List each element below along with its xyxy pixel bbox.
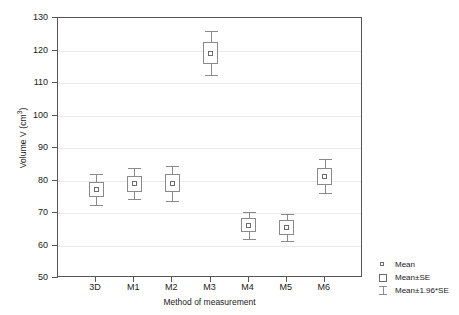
gridline <box>58 213 361 214</box>
whisker-cap-lower <box>166 201 179 202</box>
x-axis-tick-label-m4: M4 <box>228 282 268 292</box>
whisker-cap-upper <box>205 31 218 32</box>
gridline <box>58 116 361 117</box>
y-axis-tick-label: 90 <box>4 142 48 152</box>
x-axis-title: Method of measurement <box>57 297 362 307</box>
box-marker-icon <box>378 271 392 284</box>
y-axis-tick-label: 50 <box>4 272 48 282</box>
legend-label-mean-se: Mean±SE <box>392 273 430 282</box>
gridline <box>58 148 361 149</box>
chart-figure: Volume V (cm3) 5060708090100110120130 3D… <box>0 0 459 315</box>
x-axis-tick-label-m1: M1 <box>113 282 153 292</box>
legend-item-mean: Mean <box>378 258 449 271</box>
legend-item-mean-ci: Mean±1.96*SE <box>378 284 449 297</box>
whisker-cap-lower <box>128 199 141 200</box>
y-axis-tick-label: 70 <box>4 207 48 217</box>
plot-area <box>57 17 362 277</box>
x-axis-tick-label-m5: M5 <box>266 282 306 292</box>
gridline <box>58 83 361 84</box>
whisker-cap-lower <box>205 75 218 76</box>
x-axis-tick-label-m3: M3 <box>190 282 230 292</box>
x-axis-tick-label-3d: 3D <box>75 282 115 292</box>
y-axis-title: Volume V (cm3) <box>16 68 28 208</box>
legend-item-mean-se: Mean±SE <box>378 271 449 284</box>
mean-marker <box>132 181 137 186</box>
whisker-cap-upper <box>90 174 103 175</box>
mean-marker <box>284 225 289 230</box>
y-axis-tick-label: 100 <box>4 110 48 120</box>
whisker-cap-lower <box>281 241 294 242</box>
y-axis-tick-label: 80 <box>4 175 48 185</box>
whisker-cap-upper <box>243 212 256 213</box>
mean-marker <box>94 187 99 192</box>
whisker-cap-lower <box>243 239 256 240</box>
y-axis-tick-label: 130 <box>4 12 48 22</box>
mean-marker-icon <box>378 258 392 271</box>
legend-label-mean-ci: Mean±1.96*SE <box>392 286 449 295</box>
whisker-cap-lower <box>90 205 103 206</box>
whisker-cap-lower <box>319 193 332 194</box>
gridline <box>58 246 361 247</box>
x-axis-tick-label-m2: M2 <box>151 282 191 292</box>
mean-marker <box>322 174 327 179</box>
mean-marker <box>170 181 175 186</box>
legend-label-mean: Mean <box>392 260 415 269</box>
y-axis-tick <box>52 277 58 278</box>
y-axis-tick-label: 60 <box>4 240 48 250</box>
y-axis-tick-label: 120 <box>4 45 48 55</box>
x-axis-tick-label-m6: M6 <box>304 282 344 292</box>
whisker-marker-icon <box>378 284 392 297</box>
whisker-cap-upper <box>319 159 332 160</box>
whisker-cap-upper <box>281 214 294 215</box>
whisker-cap-upper <box>166 166 179 167</box>
y-axis-tick-label: 110 <box>4 77 48 87</box>
chart-legend: Mean Mean±SE Mean±1.96*SE <box>378 258 449 297</box>
mean-marker <box>246 223 251 228</box>
whisker-cap-upper <box>128 168 141 169</box>
mean-marker <box>208 51 213 56</box>
